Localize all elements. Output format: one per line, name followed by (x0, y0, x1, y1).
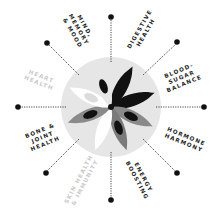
health-benefits-wheel: MIND, MEMORY & MOOD DIGESTIVE HEALTH BLO… (0, 0, 222, 214)
label-bone-joint-health: BONE & JOINT HEALTH (24, 122, 61, 152)
dot-left (15, 104, 21, 110)
label-digestive-health: DIGESTIVE HEALTH (126, 8, 159, 53)
label-blood-sugar-balance: BLOOD- SUGAR BALANCE (160, 61, 202, 94)
dot-right (201, 104, 207, 110)
label-mind-memory-mood: MIND, MEMORY & MOOD (61, 9, 96, 49)
label-hormone-harmony: HORMONE HARMONY (164, 126, 207, 153)
dot-bottom (108, 197, 114, 203)
label-heart-health: HEART HEALTH (23, 68, 57, 92)
dot-bottom-right (174, 170, 180, 176)
dot-top-right (174, 39, 180, 45)
dot-top (108, 14, 114, 20)
dot-bottom-left (43, 170, 49, 176)
label-energy-boosting: ENERGY BOOSTING (125, 157, 156, 201)
label-skin-health-immunity: SKIN HEALTH & IMMUNITY (63, 154, 100, 208)
dot-top-left (44, 40, 50, 46)
